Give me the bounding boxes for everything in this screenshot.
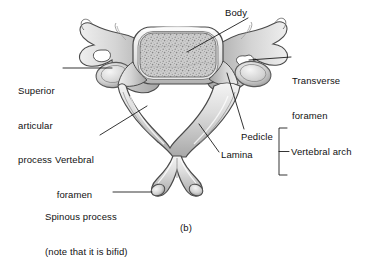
- vertebral-body: [133, 27, 223, 84]
- label-vertebral-foramen-line1: Vertebral: [55, 154, 94, 166]
- label-vertebral-arch: Vertebral arch: [291, 146, 352, 158]
- label-transverse-foramen: Transverse foramen: [292, 52, 340, 133]
- label-lamina: Lamina: [221, 149, 253, 161]
- label-pedicle: Pedicle: [241, 131, 273, 143]
- label-superior-articular-process: Superior articular process: [18, 62, 55, 177]
- label-superior-articular-process-line3: process: [18, 154, 55, 166]
- vertebra-illustration: [79, 18, 287, 198]
- label-spinous-process: Spinous process (note that it is bifid): [45, 188, 128, 261]
- vertebral-arch: [118, 83, 240, 157]
- label-body: Body: [225, 7, 247, 19]
- label-superior-articular-process-line2: articular: [18, 120, 55, 132]
- trabecular-bone: [140, 33, 216, 77]
- label-transverse-foramen-line1: Transverse: [292, 75, 340, 87]
- label-transverse-foramen-line2: foramen: [292, 110, 340, 122]
- figure-caption: (b): [180, 222, 192, 233]
- label-spinous-process-line1: Spinous process: [45, 211, 128, 223]
- label-spinous-process-line2: (note that it is bifid): [45, 246, 128, 258]
- label-superior-articular-process-line1: Superior: [18, 85, 55, 97]
- spinous-process: [149, 156, 204, 198]
